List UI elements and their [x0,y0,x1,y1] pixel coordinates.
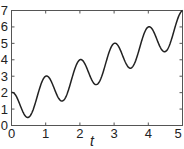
y-tick-label: 5 [1,36,8,51]
y-tick-label: 4 [1,52,8,67]
x-tick-label: 0 [8,126,15,141]
axis-ticks [12,11,183,126]
y-tick-label: 1 [1,102,8,117]
line-chart: 01234567 012345 t [0,0,184,149]
y-tick-labels: 01234567 [1,3,8,133]
x-tick-label: 2 [76,126,83,141]
x-tick-labels: 012345 [8,126,182,141]
x-tick-label: 1 [42,126,49,141]
x-tick-label: 3 [110,126,117,141]
y-tick-label: 3 [1,69,8,84]
x-tick-label: 5 [174,126,181,141]
x-axis-label: t [90,133,95,149]
y-tick-label: 2 [1,85,8,100]
plot-frame [12,11,183,126]
data-line [12,11,183,118]
y-tick-label: 7 [1,3,8,18]
y-tick-label: 6 [1,19,8,34]
x-tick-label: 4 [145,126,152,141]
